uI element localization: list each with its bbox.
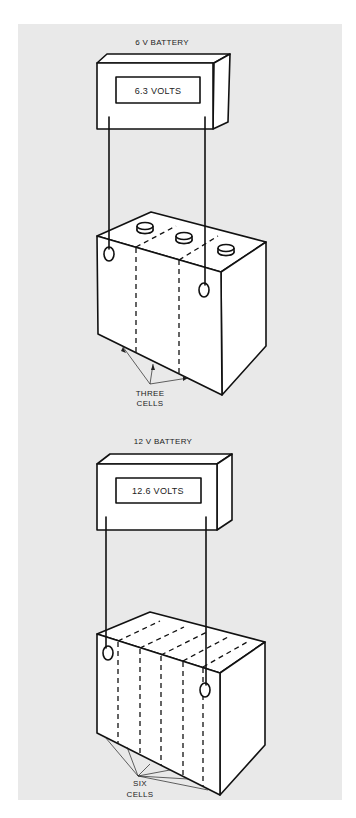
terminal-positive	[199, 283, 209, 297]
diagram-title: 12 V BATTERY	[134, 437, 193, 446]
cell-cap	[218, 245, 234, 256]
cells-label: CELLS	[137, 399, 164, 408]
meter-side-face	[217, 454, 232, 530]
battery-6v	[97, 212, 266, 395]
voltmeter: 6.3 VOLTS	[97, 54, 230, 129]
meter-reading: 6.3 VOLTS	[135, 86, 182, 96]
meter-reading: 12.6 VOLTS	[132, 486, 184, 496]
voltmeter: 12.6 VOLTS	[97, 454, 232, 530]
diagram-title: 6 V BATTERY	[135, 38, 189, 47]
battery-12v	[97, 612, 265, 795]
cell-cap	[137, 223, 153, 234]
terminal-negative	[103, 646, 113, 660]
battery-diagram: 6 V BATTERY 6.3 VOLTS	[0, 0, 356, 818]
cells-label: THREE	[136, 389, 165, 398]
cell-cap	[176, 233, 192, 244]
cells-label: CELLS	[127, 790, 154, 799]
meter-top-face	[97, 54, 230, 63]
cells-label: SIX	[133, 779, 147, 788]
diagram-12v: 12 V BATTERY 12.6 VOLTS	[97, 437, 265, 799]
diagram-6v: 6 V BATTERY 6.3 VOLTS	[97, 38, 266, 408]
terminal-positive	[200, 683, 210, 697]
meter-top-face	[97, 454, 232, 464]
meter-side-face	[213, 54, 230, 129]
